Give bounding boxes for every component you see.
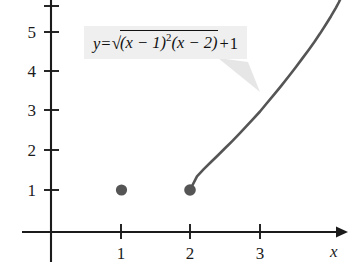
function-graph-figure: y=√(x − 1)2(x − 2)+1 5 4 3 2 1 1 2 3 x [0,0,363,273]
y-tick-label-2: 2 [16,142,36,159]
data-point-marker-1-1 [116,184,127,195]
y-tick-label-1: 1 [16,182,36,199]
equation-radicand: (x − 1)2(x − 2) [120,30,218,52]
equation-plus: + [218,34,229,53]
x-tick-label-2: 2 [180,245,200,262]
x-axis-label: x [330,243,338,260]
equation-radical: √(x − 1)2(x − 2) [112,31,219,53]
equation-factor-one: (x − 1) [120,33,166,52]
equation-constant: 1 [230,34,238,53]
y-tick-label-3: 3 [16,102,36,119]
x-tick-label-1: 1 [111,245,131,262]
x-tick-label-3: 3 [250,245,270,262]
equation-factor-two: (x − 2) [171,33,217,52]
equation-equals: = [100,34,111,53]
y-tick-label-5: 5 [16,24,36,41]
x-axis-arrowhead [336,227,348,238]
callout-tail [218,58,264,92]
data-point-marker-2-1 [184,184,196,196]
y-tick-label-4: 4 [16,63,36,80]
equation-callout: y=√(x − 1)2(x − 2)+1 [84,26,247,59]
